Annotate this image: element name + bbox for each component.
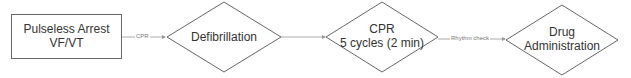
node-drug: Drug Administration <box>506 25 618 53</box>
node-start-line2: VF/VT <box>11 36 122 50</box>
node-cpr: CPR 5 cycles (2 min) <box>326 22 438 50</box>
node-drug-line2: Administration <box>506 39 618 53</box>
node-defib: Defibrillation <box>167 30 281 44</box>
node-start-line1: Pulseless Arrest <box>11 22 122 36</box>
node-drug-line1: Drug <box>506 25 618 39</box>
node-start: Pulseless Arrest VF/VT <box>11 22 122 50</box>
edge-label-rhythm-check: Rhythm check <box>450 35 490 42</box>
arrowhead-icon <box>162 35 166 39</box>
node-cpr-line2: 5 cycles (2 min) <box>326 36 438 50</box>
node-defib-line1: Defibrillation <box>167 30 281 44</box>
node-cpr-line1: CPR <box>326 22 438 36</box>
edge-label-cpr: CPR <box>135 33 150 40</box>
